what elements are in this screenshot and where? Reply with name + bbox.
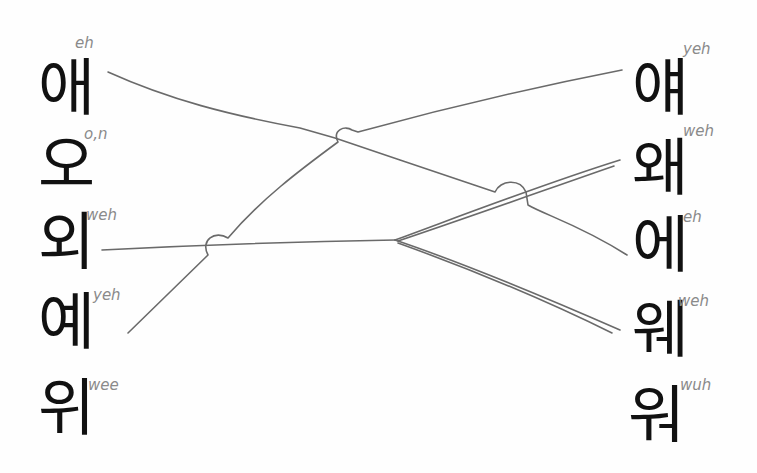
diagram-canvas: 애 eh 오 o,n 외 weh 예 yeh 위 wee 얘 yeh 왜 weh… bbox=[0, 0, 757, 473]
right-note-we: weh bbox=[678, 294, 709, 309]
left-note-ye: yeh bbox=[93, 288, 121, 303]
line-ye-to-yae bbox=[128, 70, 622, 333]
right-glyph-wae: 왜 bbox=[632, 138, 687, 200]
line-ae-to-e bbox=[108, 72, 627, 255]
left-glyph-o: 오 bbox=[38, 135, 93, 197]
right-glyph-yae: 얘 bbox=[632, 58, 687, 120]
line-oe-to-we-b bbox=[398, 243, 612, 333]
left-glyph-ae: 애 bbox=[38, 58, 93, 120]
left-note-o: o,n bbox=[84, 127, 107, 142]
right-note-e: eh bbox=[683, 210, 702, 225]
right-glyph-wo: 워 bbox=[628, 385, 683, 447]
right-glyph-e: 에 bbox=[632, 215, 687, 277]
right-note-wae: weh bbox=[683, 124, 714, 139]
line-oe-trunk bbox=[102, 240, 395, 250]
right-note-yae: yeh bbox=[683, 42, 711, 57]
line-oe-to-wae bbox=[395, 160, 620, 240]
left-note-ae: eh bbox=[75, 36, 94, 51]
right-note-wo: wuh bbox=[680, 378, 711, 393]
left-glyph-wi: 위 bbox=[38, 378, 93, 440]
left-note-wi: wee bbox=[88, 378, 119, 393]
left-glyph-ye: 예 bbox=[38, 292, 93, 354]
left-note-oe: weh bbox=[86, 208, 117, 223]
left-glyph-oe: 외 bbox=[38, 212, 93, 274]
